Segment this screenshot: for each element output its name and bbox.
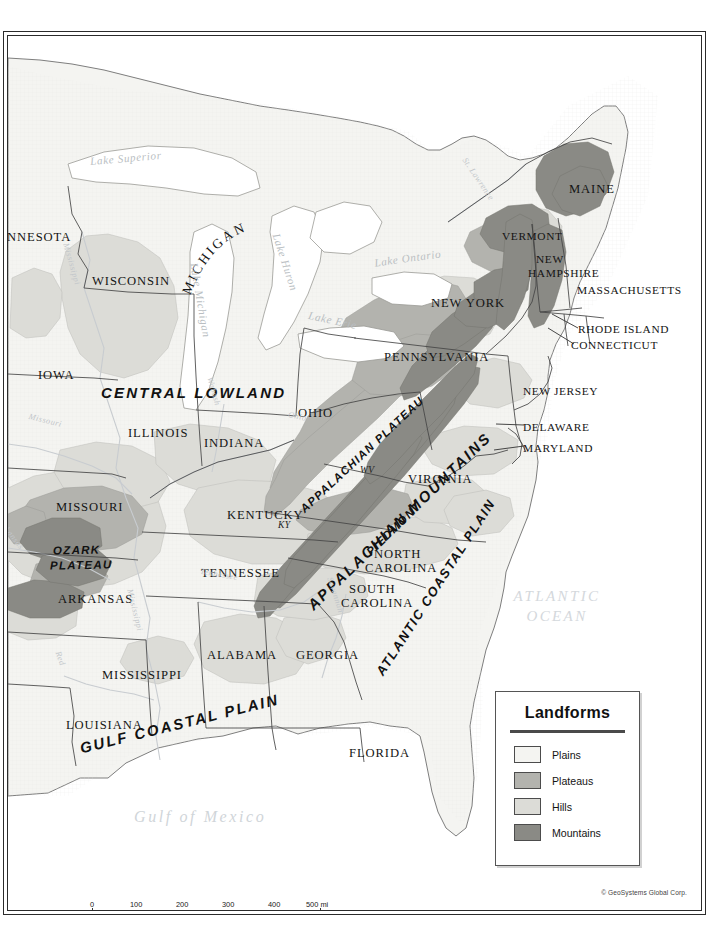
state-label-michigan: MICHIGAN (178, 206, 318, 316)
scale-bar: 0 100 200 300 400 500 mi (92, 898, 332, 910)
legend-divider (510, 730, 625, 733)
legend-swatch-plains (514, 746, 541, 763)
legend-swatch-plateaus (514, 772, 541, 789)
scale-mi-tick-400: 400 (268, 900, 280, 909)
scale-mi-label: 500 mi (306, 900, 328, 909)
legend-label-hills: Hills (552, 801, 572, 813)
legend-swatch-mountains (514, 824, 541, 841)
legend-label-plateaus: Plateaus (552, 775, 593, 787)
svg-text:MICHIGAN: MICHIGAN (179, 219, 249, 296)
legend-title: Landforms (496, 704, 639, 722)
state-label-michigan-text: MICHIGAN (179, 219, 249, 296)
legend-panel: Landforms Plains Plateaus Hills (495, 691, 640, 866)
map-canvas: INNESOTA WISCONSIN IOWA ILLINOIS INDIANA… (8, 36, 701, 910)
map-page: INNESOTA WISCONSIN IOWA ILLINOIS INDIANA… (0, 0, 713, 946)
legend-item-mountains: Mountains (514, 824, 639, 841)
legend-swatch-hills (514, 798, 541, 815)
map-frame-inner: INNESOTA WISCONSIN IOWA ILLINOIS INDIANA… (7, 35, 702, 911)
scale-tick-mi-0 (92, 908, 93, 910)
scale-mi-tick-100: 100 (130, 900, 142, 909)
copyright-notice: © GeoSystems Global Corp. (601, 889, 687, 896)
legend-item-plateaus: Plateaus (514, 772, 639, 789)
legend-label-mountains: Mountains (552, 827, 601, 839)
legend-item-hills: Hills (514, 798, 639, 815)
legend-items: Plains Plateaus Hills Mountains (514, 746, 639, 841)
scale-mi-tick-300: 300 (222, 900, 234, 909)
scale-tick-mi-500 (320, 908, 321, 910)
legend-label-plains: Plains (552, 749, 581, 761)
scale-mi-tick-200: 200 (176, 900, 188, 909)
legend-item-plains: Plains (514, 746, 639, 763)
